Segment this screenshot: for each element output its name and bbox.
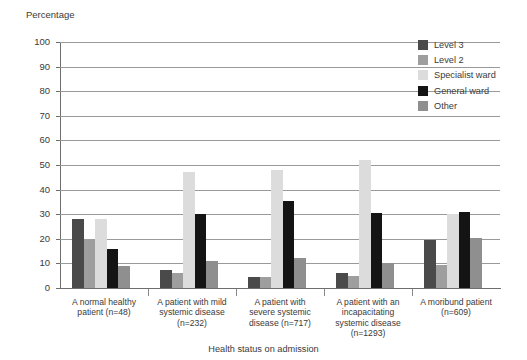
- x-axis-line: [60, 288, 501, 289]
- bar: [248, 277, 260, 288]
- legend-swatch-icon: [418, 70, 428, 80]
- y-tick-label: 100: [24, 36, 50, 47]
- bar: [84, 239, 96, 288]
- bar: [195, 214, 207, 288]
- y-tick-label: 90: [24, 61, 50, 72]
- legend-item[interactable]: Level 3: [418, 37, 496, 52]
- bar: [160, 270, 172, 288]
- category-label: A patient with anincapacitatingsystemic …: [319, 297, 417, 339]
- y-tick-label: 20: [24, 233, 50, 244]
- bar: [371, 213, 383, 288]
- bar: [118, 266, 130, 288]
- legend-swatch-icon: [418, 55, 428, 65]
- category-label: A patient with mildsystemic disease(n=23…: [143, 297, 241, 328]
- legend-item[interactable]: Other: [418, 99, 496, 114]
- legend-label: Specialist ward: [434, 70, 496, 80]
- y-tick-label: 0: [24, 282, 50, 293]
- category-separator: [236, 289, 237, 296]
- bar: [424, 240, 436, 288]
- bar: [283, 201, 295, 288]
- bar: [72, 219, 84, 288]
- y-tick-label: 40: [24, 184, 50, 195]
- bar: [359, 160, 371, 288]
- legend-label: Level 3: [434, 40, 464, 50]
- bar: [172, 273, 184, 288]
- bar: [382, 263, 394, 288]
- y-tick-label: 10: [24, 257, 50, 268]
- bar: [436, 265, 448, 288]
- category-separator: [412, 289, 413, 296]
- bar: [294, 258, 306, 288]
- legend-swatch-icon: [418, 40, 428, 50]
- bar: [459, 212, 471, 288]
- category-separator: [324, 289, 325, 296]
- bar: [447, 214, 459, 288]
- category-label: A normal healthypatient (n=48): [55, 297, 153, 318]
- bar: [107, 249, 119, 288]
- legend-item[interactable]: Level 2: [418, 52, 496, 67]
- legend-swatch-icon: [418, 86, 428, 96]
- y-tick-label: 60: [24, 134, 50, 145]
- y-tick-label: 80: [24, 85, 50, 96]
- bar: [183, 172, 195, 288]
- category-separator: [148, 289, 149, 296]
- y-tick-label: 70: [24, 110, 50, 121]
- bar: [470, 238, 482, 288]
- bar: [95, 219, 107, 288]
- y-tick-mark: [56, 288, 60, 289]
- y-tick-label: 30: [24, 208, 50, 219]
- legend-label: Level 2: [434, 55, 464, 65]
- legend-label: General ward: [434, 86, 489, 96]
- bar: [336, 273, 348, 288]
- bar: [348, 276, 360, 288]
- bar: [260, 277, 272, 288]
- legend-item[interactable]: Specialist ward: [418, 68, 496, 83]
- y-tick-label: 50: [24, 159, 50, 170]
- bar: [271, 170, 283, 288]
- y-axis-title: Percentage: [26, 9, 75, 20]
- legend: Level 3Level 2Specialist wardGeneral war…: [418, 37, 496, 114]
- category-label: A patient withsevere systemicdisease (n=…: [231, 297, 329, 328]
- bar: [206, 261, 218, 288]
- legend-label: Other: [434, 101, 457, 111]
- bar-chart: Percentage 0102030405060708090100 A norm…: [0, 0, 527, 360]
- x-axis-title: Health status on admission: [0, 344, 527, 354]
- category-label: A moribund patient(n=609): [407, 297, 505, 318]
- legend-swatch-icon: [418, 101, 428, 111]
- legend-item[interactable]: General ward: [418, 83, 496, 98]
